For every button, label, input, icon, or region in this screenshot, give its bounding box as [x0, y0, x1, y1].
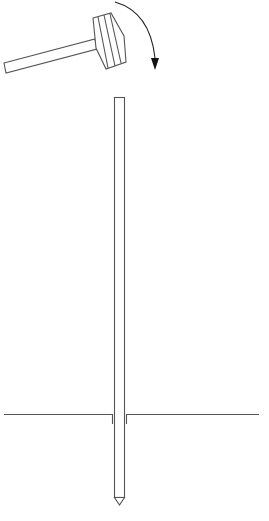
hammer-stake-diagram	[0, 0, 269, 521]
ground	[4, 415, 259, 425]
arrowhead-icon	[151, 58, 159, 70]
hammer-handle	[4, 39, 97, 73]
stake-shaft	[115, 98, 125, 498]
ground-line-left	[4, 415, 113, 425]
ground-line-right	[127, 415, 260, 425]
hammer	[4, 13, 126, 73]
stake	[115, 98, 125, 506]
stake-tip	[115, 498, 125, 506]
